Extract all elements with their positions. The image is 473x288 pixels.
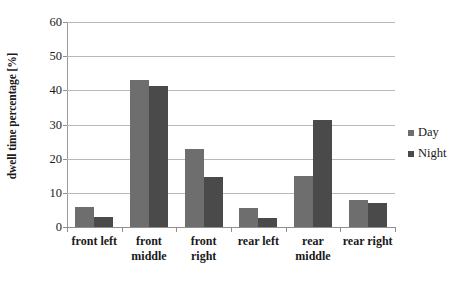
gridline [67, 125, 395, 126]
legend-swatch-day [408, 130, 414, 136]
bar-night-rear-left [258, 218, 277, 227]
legend-label: Night [418, 146, 446, 161]
x-axis-label-line: right [176, 249, 231, 264]
bar-chart: dwell time percentage [%] 0102030405060 … [0, 0, 473, 288]
bar-night-front-middle [149, 86, 168, 227]
bar-night-rear-right [368, 203, 387, 227]
y-axis-tick-label: 40 [32, 83, 62, 98]
gridline [67, 22, 395, 23]
x-axis-tick-mark [176, 227, 177, 232]
x-axis-label-line: rear right [340, 234, 395, 249]
legend-item-night: Night [408, 143, 470, 164]
gridline [67, 159, 395, 160]
y-axis-tick-labels: 0102030405060 [26, 0, 62, 288]
bar-day-front-left [75, 207, 94, 228]
x-axis-label-line: front [176, 234, 231, 249]
x-axis-category-label: frontmiddle [122, 234, 177, 263]
bar-night-front-right [204, 177, 223, 227]
gridline [67, 90, 395, 91]
y-axis-tick-mark [63, 56, 67, 57]
bar-night-rear-middle [313, 120, 332, 227]
legend-label: Day [418, 125, 439, 140]
y-axis-tick-label: 30 [32, 117, 62, 132]
y-axis-title: dwell time percentage [%] [0, 0, 24, 232]
x-axis-label-line: middle [286, 249, 341, 264]
y-axis-tick-mark [63, 159, 67, 160]
x-axis-label-line: rear [286, 234, 341, 249]
y-axis-tick-mark [63, 125, 67, 126]
bar-night-front-left [94, 217, 113, 227]
bar-day-rear-middle [294, 176, 313, 227]
x-axis-tick-mark [286, 227, 287, 232]
x-axis-tick-mark [340, 227, 341, 232]
x-axis-tick-mark [231, 227, 232, 232]
gridline [67, 56, 395, 57]
y-axis-tick-mark [63, 193, 67, 194]
x-axis-label-line: front left [67, 234, 122, 249]
x-axis-category-label: rear right [340, 234, 395, 249]
legend-item-day: Day [408, 122, 470, 143]
chart-legend: DayNight [408, 122, 470, 164]
x-axis-tick-mark [122, 227, 123, 232]
x-axis-tick-mark [67, 227, 68, 232]
x-axis-tick-mark [395, 227, 396, 232]
bar-day-rear-left [239, 208, 258, 227]
gridline [67, 193, 395, 194]
legend-swatch-night [408, 151, 414, 157]
plot-area [67, 22, 395, 227]
bar-day-rear-right [349, 200, 368, 227]
x-axis-category-label: front left [67, 234, 122, 249]
x-axis-category-label: frontright [176, 234, 231, 263]
x-axis-label-line: front [122, 234, 177, 249]
x-axis-label-line: rear left [231, 234, 286, 249]
bar-day-front-right [185, 149, 204, 227]
x-axis-category-label: rearmiddle [286, 234, 341, 263]
y-axis-tick-label: 60 [32, 15, 62, 30]
y-axis-tick-mark [63, 22, 67, 23]
x-axis-label-line: middle [122, 249, 177, 264]
y-axis-tick-label: 50 [32, 49, 62, 64]
y-axis-title-text: dwell time percentage [%] [6, 53, 18, 180]
y-axis-tick-mark [63, 90, 67, 91]
bar-day-front-middle [130, 80, 149, 227]
y-axis-tick-label: 10 [32, 185, 62, 200]
y-axis-tick-label: 20 [32, 151, 62, 166]
y-axis-tick-label: 0 [32, 220, 62, 235]
x-axis-category-label: rear left [231, 234, 286, 249]
